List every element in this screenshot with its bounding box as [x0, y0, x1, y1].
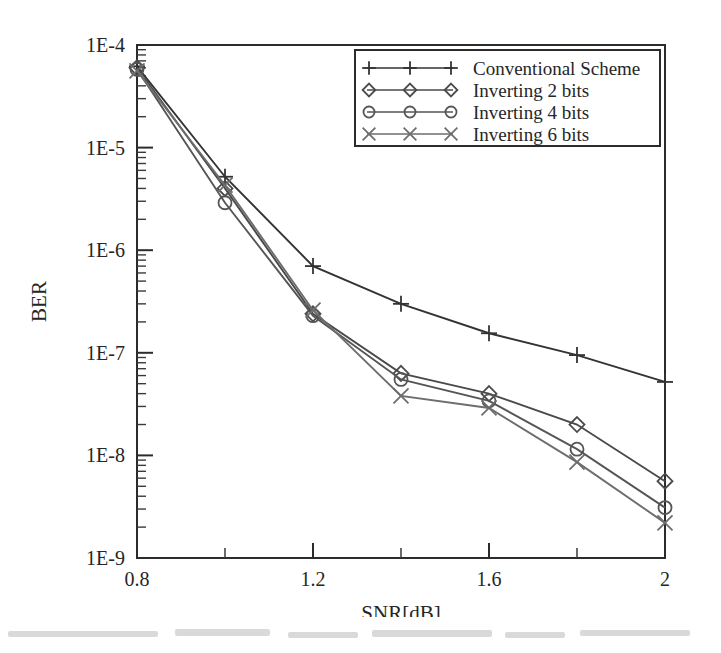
legend-label: Inverting 2 bits	[473, 80, 589, 101]
x-tick-label: 1.2	[301, 568, 326, 590]
x-tick-label: 2	[660, 568, 670, 590]
y-tick-label: 1E-5	[86, 137, 125, 159]
ber-vs-snr-chart: 1E-41E-51E-61E-71E-81E-90.81.21.62SNR[dB…	[0, 0, 721, 653]
x-tick-label: 1.6	[477, 568, 502, 590]
chart-svg: 1E-41E-51E-61E-71E-81E-90.81.21.62SNR[dB…	[0, 0, 721, 653]
y-tick-label: 1E-6	[86, 239, 125, 261]
x-tick-label: 0.8	[125, 568, 150, 590]
y-axis: 1E-41E-51E-61E-71E-81E-9	[86, 34, 153, 569]
legend-label: Inverting 4 bits	[473, 102, 589, 123]
legend: Conventional SchemeInverting 2 bitsInver…	[355, 50, 660, 146]
y-tick-label: 1E-8	[86, 444, 125, 466]
legend-label: Conventional Scheme	[473, 58, 640, 79]
y-axis-title: BER	[27, 281, 51, 322]
legend-label: Inverting 6 bits	[473, 124, 589, 145]
y-tick-label: 1E-9	[86, 547, 125, 569]
scan-artifact-band	[0, 617, 721, 653]
x-axis: 0.81.21.62	[125, 543, 671, 590]
y-tick-label: 1E-4	[86, 34, 125, 56]
y-tick-label: 1E-7	[86, 342, 125, 364]
